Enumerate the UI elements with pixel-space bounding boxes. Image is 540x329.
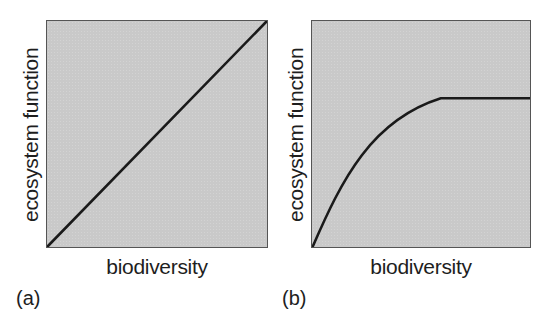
linear-curve <box>47 21 267 247</box>
panel-label-b: (b) <box>282 287 306 310</box>
panel-b: ecosystem function biodiversity (b) <box>270 0 540 329</box>
plot-area-b <box>311 20 531 248</box>
y-axis-label-a: ecosystem function <box>19 48 43 222</box>
plot-area-a <box>46 20 268 248</box>
x-axis-label-b: biodiversity <box>311 255 531 279</box>
y-axis-label-b: ecosystem function <box>284 48 308 222</box>
panel-label-a: (a) <box>16 287 40 310</box>
saturating-curve <box>312 21 530 247</box>
x-axis-label-a: biodiversity <box>46 255 268 279</box>
panel-a: ecosystem function biodiversity (a) <box>0 0 270 329</box>
